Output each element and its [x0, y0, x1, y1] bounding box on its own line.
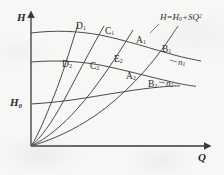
system-parabola-1: [31, 24, 78, 146]
y-axis-label: H: [17, 12, 26, 23]
system-parabola-2: [31, 26, 104, 146]
system-equation-label: H=H0+SQ2: [160, 13, 202, 23]
point-label-E2: E2: [114, 55, 123, 65]
point-label-D1: D1: [76, 22, 86, 32]
equation-leader-line: [150, 24, 159, 33]
point-label-B2: B2: [148, 80, 157, 90]
point-label-B1: B1: [162, 45, 171, 55]
point-label-D2: D2: [62, 60, 72, 70]
x-axis-label: Q: [198, 152, 206, 163]
point-label-C2: C2: [90, 62, 99, 72]
n2-leader-line: [159, 82, 165, 83]
curve-label-n1: n1: [178, 58, 185, 68]
point-label-A1: A1: [136, 36, 146, 46]
curve-label-n2: n2: [166, 79, 173, 89]
n1-leader-line: [170, 60, 177, 62]
point-label-A2: A2: [126, 72, 136, 82]
h0-axis-label: H0: [10, 97, 22, 109]
pump-curve-lower: [31, 86, 180, 104]
pump-system-curve-diagram: H Q H0 H=H0+SQ2 D1 C1 A1 B1 D2 C2 E2 A2 …: [0, 0, 224, 175]
point-label-C1: C1: [105, 27, 114, 37]
